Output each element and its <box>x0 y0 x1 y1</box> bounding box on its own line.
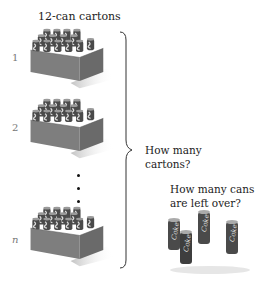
cans-question-line1: How many cans <box>170 182 254 196</box>
right-brace-icon <box>118 30 138 270</box>
carton-icon <box>16 92 116 162</box>
ellipsis-dot <box>77 187 80 190</box>
cans-question: How many cans are left over? <box>170 182 254 210</box>
cartons-question-line2: cartons? <box>145 157 202 171</box>
cans-question-line2: are left over? <box>170 196 254 210</box>
ellipsis-dot <box>77 174 80 177</box>
loose-cans-icon: Coke Coke Coke Coke <box>160 210 260 275</box>
cartons-question-line1: How many <box>145 143 202 157</box>
carton-icon <box>16 22 116 92</box>
cartons-question: How many cartons? <box>145 143 202 171</box>
carton-icon <box>16 200 116 270</box>
